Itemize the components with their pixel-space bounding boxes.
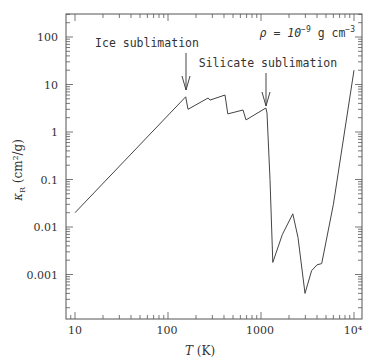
y-axis-label: κR (cm²/g): [11, 139, 27, 202]
y-tick-10: 10: [44, 79, 58, 92]
density-label: ρ = 10−9 g cm−3: [260, 25, 356, 40]
silicate-arrow-icon: [262, 73, 270, 106]
ice-sublimation-label: Ice sublimation: [95, 36, 199, 50]
y-tick-1: 1: [51, 126, 58, 139]
x-tick-10000: 10⁴: [344, 324, 363, 337]
x-tick-1000: 1000: [246, 324, 274, 337]
ice-arrow-icon: [182, 53, 190, 90]
y-tick-0.01: 0.01: [34, 221, 59, 234]
y-tick-100: 100: [37, 31, 58, 44]
x-axis-label: T (K): [185, 344, 215, 358]
opacity-chart: 100 10 1 0.1 0.01 0.001 10 100 1000 10⁴ …: [0, 0, 375, 363]
x-tick-10: 10: [68, 324, 82, 337]
opacity-curve: [75, 70, 354, 293]
x-tick-100: 100: [157, 324, 178, 337]
y-tick-0.001: 0.001: [27, 269, 59, 282]
y-tick-0.1: 0.1: [41, 174, 59, 187]
silicate-sublimation-label: Silicate sublimation: [199, 56, 337, 70]
